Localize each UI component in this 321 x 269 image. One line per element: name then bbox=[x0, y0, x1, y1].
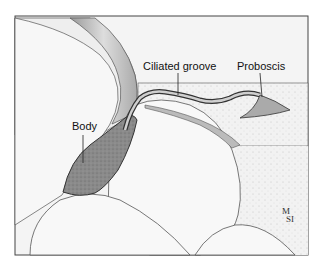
label-body: Body bbox=[72, 120, 97, 132]
label-proboscis: Proboscis bbox=[237, 60, 285, 72]
label-ciliated-groove: Ciliated groove bbox=[143, 60, 216, 72]
artist-signature: M SI bbox=[282, 207, 294, 223]
illustration bbox=[0, 0, 321, 269]
